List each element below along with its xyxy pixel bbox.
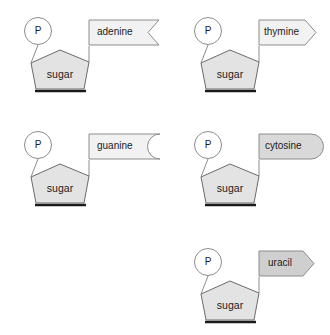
- nucleotide-adenine: sugar P adenine: [25, 18, 160, 92]
- base-label-adenine: adenine: [97, 26, 133, 37]
- base-label-thymine: thymine: [264, 26, 299, 37]
- nucleotide-diagram-canvas: sugar P adenine sugar P thymine sugar P …: [0, 0, 330, 335]
- sugar-label: sugar: [47, 182, 74, 194]
- phosphate-label: P: [35, 139, 42, 150]
- nucleotide-cytosine: sugar P cytosine: [195, 132, 324, 206]
- nucleotide-thymine: sugar P thymine: [195, 18, 317, 92]
- nucleotide-guanine: sugar P guanine: [25, 132, 161, 206]
- phosphate-label: P: [205, 139, 212, 150]
- phosphate-label: P: [205, 25, 212, 36]
- nucleotide-diagram: sugar P adenine sugar P thymine sugar P …: [0, 0, 330, 335]
- phosphate-label: P: [35, 25, 42, 36]
- base-label-guanine: guanine: [97, 140, 133, 151]
- phosphate-label: P: [205, 256, 212, 267]
- base-label-cytosine: cytosine: [265, 140, 302, 151]
- nucleotide-uracil: sugar P uracil: [195, 249, 315, 323]
- sugar-label: sugar: [217, 182, 244, 194]
- sugar-label: sugar: [47, 68, 74, 80]
- sugar-label: sugar: [217, 299, 244, 311]
- base-label-uracil: uracil: [268, 257, 292, 268]
- sugar-label: sugar: [217, 68, 244, 80]
